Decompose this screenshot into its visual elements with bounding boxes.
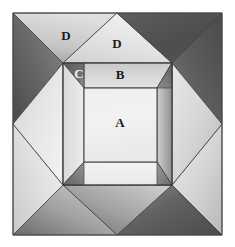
label-D-top: D [112,36,121,51]
label-A: A [115,115,125,130]
label-B: B [116,67,125,82]
geometry-figure: A B C D D [0,0,235,247]
label-C: C [74,66,83,81]
figure-canvas: A B C D D [0,0,235,247]
label-D-left: D [61,28,70,43]
